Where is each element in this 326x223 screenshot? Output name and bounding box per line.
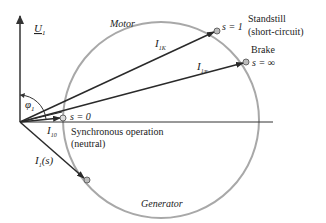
point-I1s [84,177,90,183]
label-I1K: I1K [154,37,167,51]
s1-description-line1: Standstill [248,13,286,24]
s0-description-line2: (neutral) [71,138,105,150]
point-s0 [60,115,66,121]
slip-sinf-label: s = ∞ [252,57,275,68]
vector-I1K [20,32,214,122]
generator-label: Generator [141,198,183,209]
motor-label: Motor [109,18,135,29]
circle-diagram: U1 φ1 Motor Generator I1K I1∞ I10 I1(s) … [0,0,326,223]
voltage-label: U1 [34,22,45,37]
slip-s0-label: s = 0 [70,111,91,122]
label-I1inf: I1∞ [196,60,209,74]
phi-label: φ1 [25,98,35,113]
s0-description-line1: Synchronous operation [71,126,164,137]
label-I1s: I1(s) [34,154,54,168]
vector-I1inf [20,63,243,122]
point-sinf [243,59,249,65]
sinf-description-line1: Brake [251,44,275,55]
label-I10: I10 [46,124,57,138]
point-s1 [214,28,220,34]
slip-s1-label: s = 1 [222,21,243,32]
s1-description-line2: (short-circuit) [248,26,304,38]
current-locus-circle [63,22,259,218]
